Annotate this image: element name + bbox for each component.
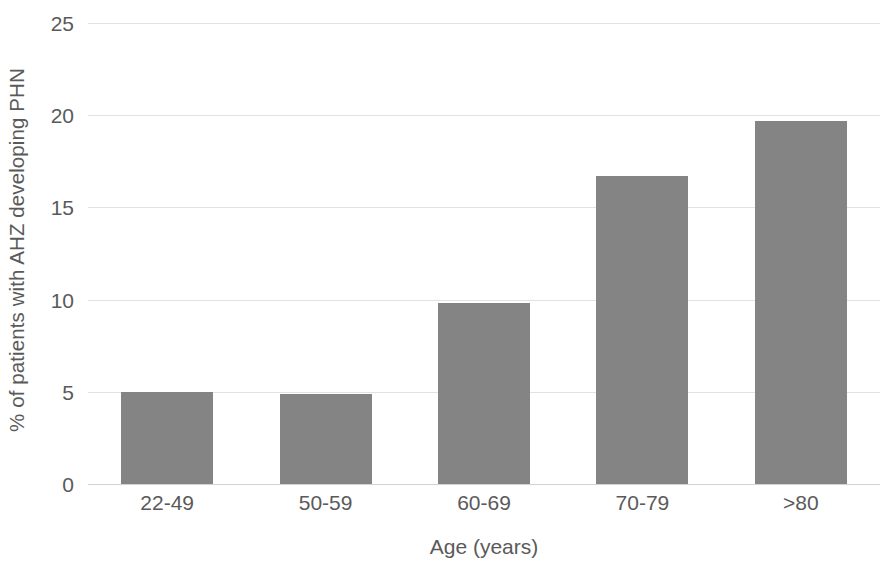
bar bbox=[280, 394, 372, 484]
x-tick-label: 22-49 bbox=[140, 492, 194, 513]
y-tick-label: 20 bbox=[4, 105, 74, 126]
x-tick-label: 70-79 bbox=[616, 492, 670, 513]
y-tick-label: 10 bbox=[4, 289, 74, 310]
x-tick-label: >80 bbox=[783, 492, 819, 513]
bar bbox=[121, 392, 213, 484]
y-tick-label: 25 bbox=[4, 13, 74, 34]
bar bbox=[438, 303, 530, 484]
bar-chart: % of patients with AHZ developing PHN 05… bbox=[0, 0, 885, 576]
y-tick-label: 0 bbox=[4, 474, 74, 495]
y-axis-tick-labels: 0510152025 bbox=[0, 23, 74, 484]
x-axis-title: Age (years) bbox=[88, 536, 880, 557]
bar bbox=[596, 176, 688, 484]
axis-baseline bbox=[88, 484, 880, 485]
y-tick-label: 5 bbox=[4, 381, 74, 402]
x-axis-tick-labels: 22-4950-5960-6970-79>80 bbox=[88, 492, 880, 526]
bar bbox=[755, 121, 847, 484]
bar-series bbox=[88, 23, 880, 484]
y-tick-label: 15 bbox=[4, 197, 74, 218]
x-tick-label: 50-59 bbox=[299, 492, 353, 513]
x-tick-label: 60-69 bbox=[457, 492, 511, 513]
